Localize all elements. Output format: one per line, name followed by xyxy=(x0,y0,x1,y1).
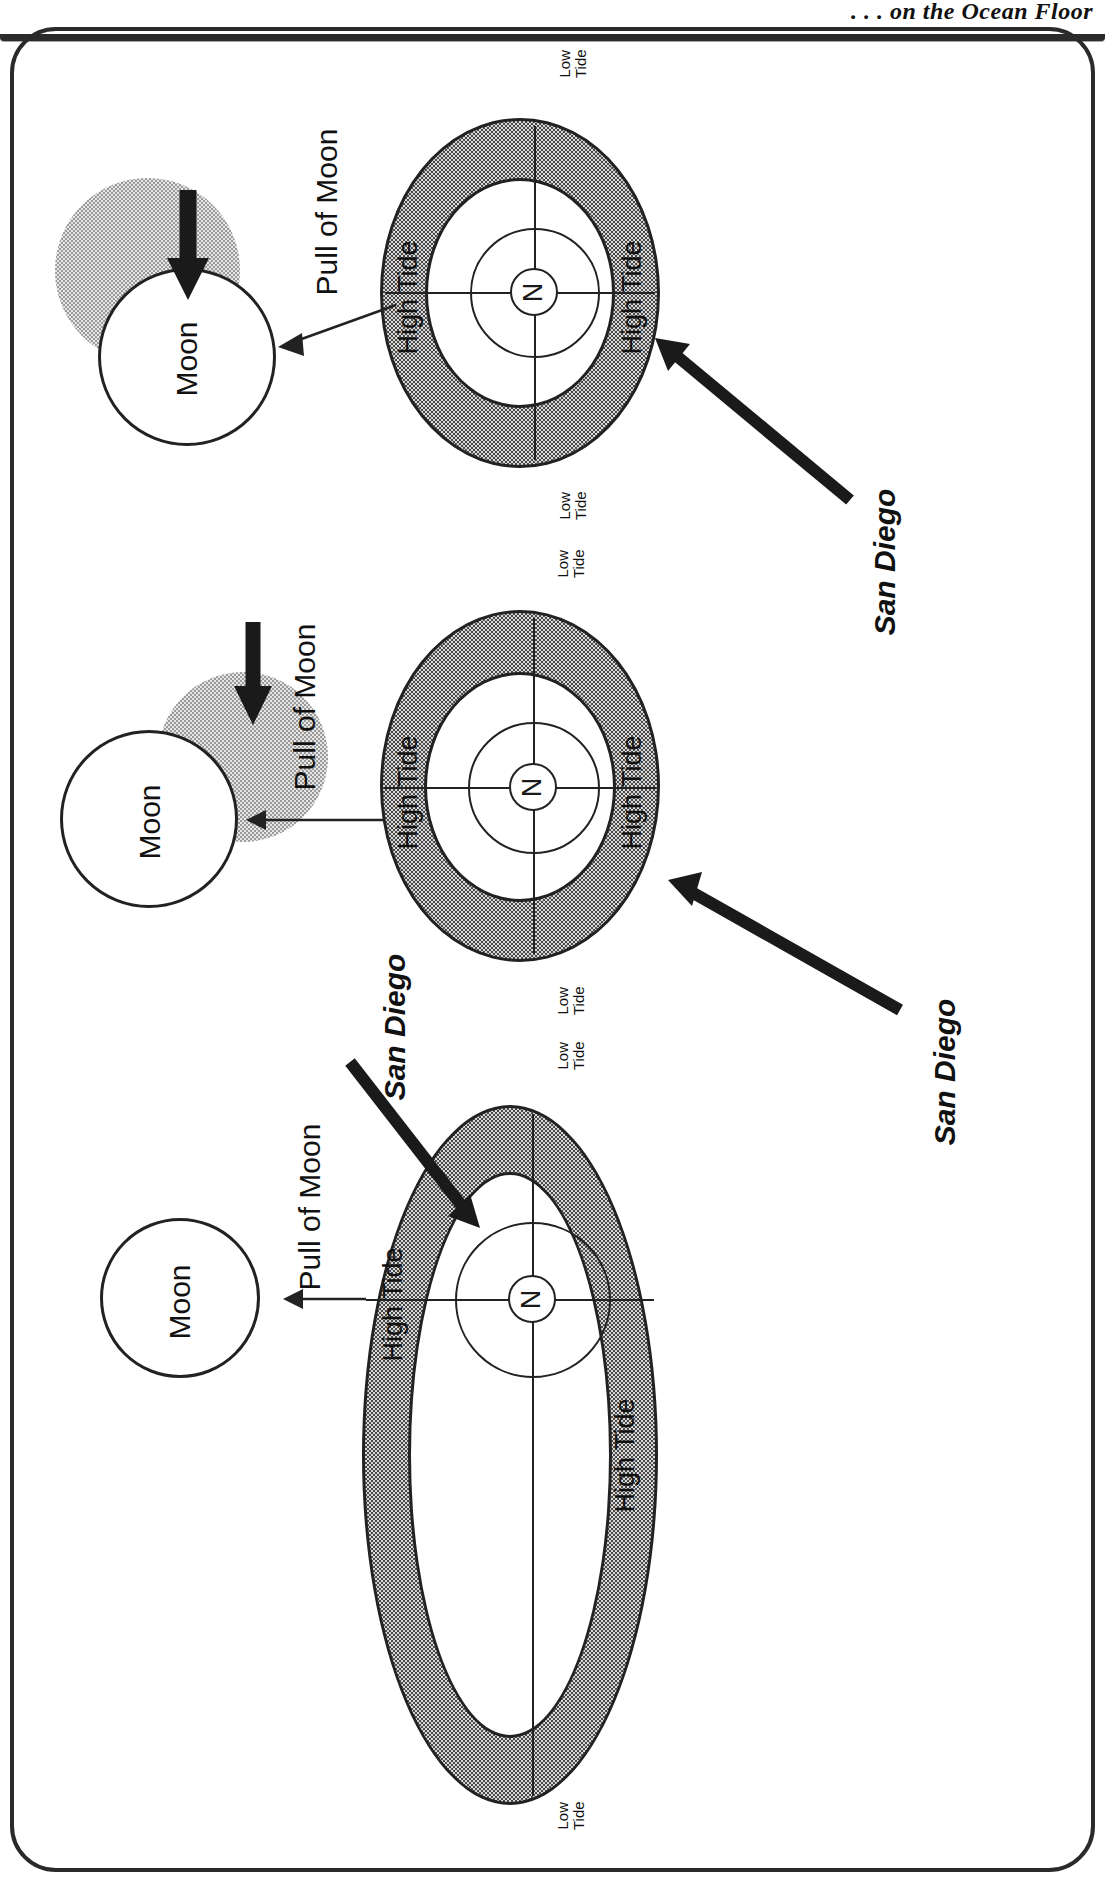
san-diego-label: San Diego xyxy=(378,932,412,1122)
pull-of-moon-label: Pull of Moon xyxy=(293,1092,327,1322)
panel-bottom-arrows xyxy=(0,0,1105,1884)
san-diego-arrow xyxy=(350,1062,480,1228)
